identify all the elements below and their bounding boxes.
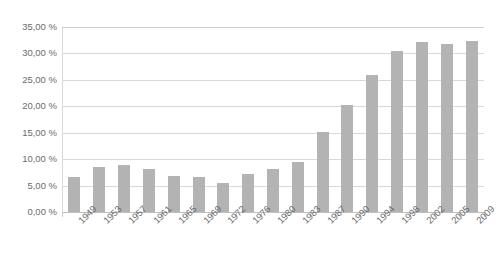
y-axis-labels: 0,00 %5,00 %10,00 %15,00 %20,00 %25,00 %… bbox=[0, 0, 57, 267]
y-axis-tick-label: 5,00 % bbox=[0, 181, 57, 191]
bars-layer bbox=[62, 27, 484, 212]
bar-1990 bbox=[341, 105, 353, 212]
y-axis-tick-label: 35,00 % bbox=[0, 22, 57, 32]
bar-1994 bbox=[366, 75, 378, 212]
bar-1983 bbox=[292, 162, 304, 212]
bar-1987 bbox=[317, 132, 329, 212]
bar-1961 bbox=[143, 169, 155, 212]
y-axis-tick-label: 10,00 % bbox=[0, 154, 57, 164]
x-axis-labels: 1949195319571961196519691972197619801983… bbox=[62, 218, 484, 267]
y-axis-tick-label: 25,00 % bbox=[0, 75, 57, 85]
y-axis-tick-label: 15,00 % bbox=[0, 128, 57, 138]
y-axis-tick-label: 20,00 % bbox=[0, 101, 57, 111]
bar-1949 bbox=[68, 177, 80, 212]
x-axis-tick bbox=[62, 213, 63, 217]
bar-2009 bbox=[466, 41, 478, 212]
bar-1998 bbox=[391, 51, 403, 212]
y-axis-tick-label: 0,00 % bbox=[0, 207, 57, 217]
bar-2005 bbox=[441, 44, 453, 212]
bar-1957 bbox=[118, 165, 130, 212]
x-axis-ticks bbox=[62, 213, 484, 217]
y-axis-tick-label: 30,00 % bbox=[0, 48, 57, 58]
bar-2002 bbox=[416, 42, 428, 212]
bar-1953 bbox=[93, 167, 105, 212]
bar-1980 bbox=[267, 169, 279, 212]
